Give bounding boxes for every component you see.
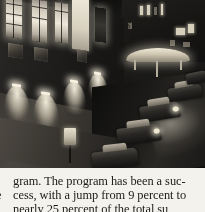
canopy-post bbox=[134, 60, 136, 70]
signpost-plate bbox=[64, 128, 76, 145]
window-mullion bbox=[39, 0, 40, 42]
wall-poster bbox=[8, 43, 23, 59]
body-text-line: cess, with a jump from 9 percent to bbox=[13, 188, 205, 202]
banner-sign-label: Landscape bbox=[118, 1, 133, 54]
facade-window bbox=[95, 7, 106, 43]
scanned-page: Landscape bbox=[0, 0, 205, 212]
night-street-photograph: Landscape bbox=[0, 0, 205, 168]
lit-window bbox=[188, 24, 194, 33]
lit-window bbox=[183, 42, 190, 47]
wall-poster bbox=[77, 49, 87, 63]
canopy-post bbox=[180, 60, 182, 70]
vertical-banner-sign bbox=[72, 0, 89, 51]
lit-window bbox=[176, 28, 185, 35]
body-text-line: gram. The program has been a suc- bbox=[13, 174, 205, 188]
body-text-column: e gram. The program has been a suc- cess… bbox=[0, 168, 205, 212]
canopy-post bbox=[156, 61, 158, 77]
wall-poster bbox=[34, 47, 48, 62]
lit-window bbox=[161, 4, 163, 15]
lit-window bbox=[147, 5, 150, 15]
lit-window bbox=[154, 7, 157, 15]
window-mullion bbox=[61, 3, 62, 43]
body-text-line: nearly 25 percent of the total su bbox=[13, 202, 205, 212]
gutter-text-fragment: e bbox=[0, 188, 6, 202]
window-mullion bbox=[13, 0, 14, 38]
lit-window bbox=[170, 40, 175, 46]
lit-window bbox=[140, 6, 143, 15]
